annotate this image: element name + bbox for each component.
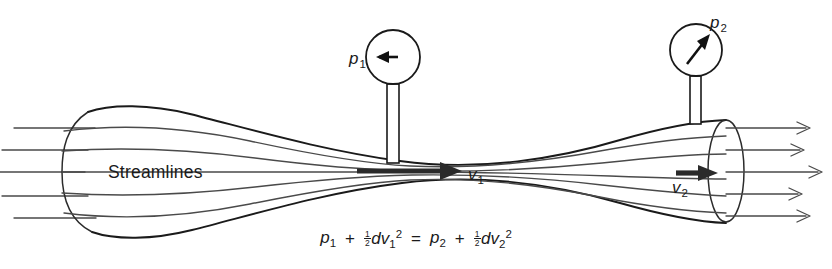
venturi-tube-diagram: Streamlines p1 p2 v1 v2 p1+12dv12=p2+12d… [0,0,832,269]
equation-rhs-kinetic: 12dv22 [474,228,512,250]
equation-lhs-operator: + [336,229,364,249]
outlet-streamlines [726,122,822,222]
pressure-gauge-2 [670,24,722,124]
velocity-2-label: v2 [672,178,688,199]
tube-right-opening [708,120,744,222]
one-half-fraction: 12 [364,230,371,248]
equation-relation: = [402,229,430,249]
equation-rhs-operator: + [446,229,474,249]
pressure-gauge-1 [366,30,420,163]
inlet-streamlines [0,128,96,218]
equation-lhs-pressure: p1 [320,228,336,249]
equation-rhs-pressure: p2 [430,228,446,249]
velocity-1-label: v1 [468,165,484,186]
pressure-1-label: p1 [348,49,366,70]
bernoulli-equation: p1+12dv12=p2+12dv22 [0,228,832,250]
equation-lhs-kinetic: 12dv12 [364,228,402,250]
streamlines-label: Streamlines [108,162,203,182]
one-half-fraction: 12 [474,230,481,248]
pressure-2-label: p2 [709,13,727,34]
velocity-arrow-1 [357,162,462,180]
